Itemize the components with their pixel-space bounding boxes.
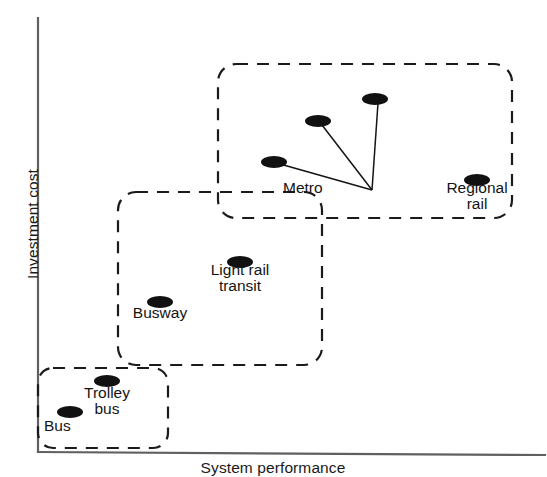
point-label-metro: Metro bbox=[283, 180, 393, 196]
point-label-regional-rail-line2: rail bbox=[427, 196, 527, 212]
metro-leader-lines bbox=[280, 103, 378, 190]
y-axis-label: Investment cost bbox=[24, 144, 42, 304]
point-label-bus: Bus bbox=[44, 418, 104, 434]
point-label-light-rail-line1: Light rail bbox=[190, 262, 290, 278]
data-point-metro-3[interactable] bbox=[362, 93, 388, 105]
point-label-busway: Busway bbox=[110, 305, 210, 321]
point-label-trolley-bus-line1: Trolley bbox=[67, 385, 147, 401]
point-label-regional-rail-line1: Regional bbox=[427, 180, 527, 196]
data-point-metro-2[interactable] bbox=[305, 115, 331, 127]
data-points-group bbox=[57, 93, 490, 418]
metro-leader-line-3 bbox=[372, 103, 378, 190]
data-point-metro-1[interactable] bbox=[261, 156, 287, 168]
x-axis-label: System performance bbox=[38, 459, 508, 477]
point-label-trolley-bus-line2: bus bbox=[67, 401, 147, 417]
point-label-light-rail-line2: transit bbox=[190, 278, 290, 294]
x-axis-line bbox=[38, 452, 545, 455]
